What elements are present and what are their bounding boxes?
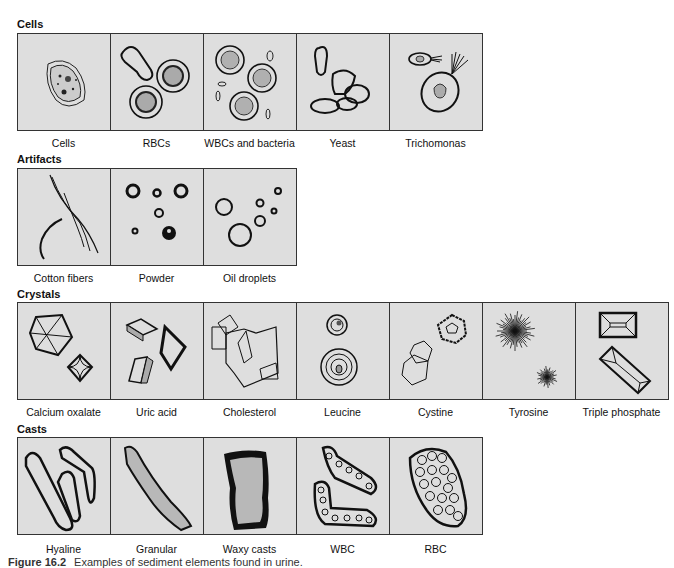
panel-rbc-cast (390, 438, 482, 534)
label-waxy-casts: Waxy casts (203, 543, 296, 555)
panel-powder (111, 169, 204, 265)
cast-inclusion-cell (356, 515, 362, 521)
cast-inclusion-cell (416, 468, 425, 477)
panel-leucine (297, 303, 390, 399)
panel-uric-acid (111, 303, 204, 399)
cast-inclusion-cell (444, 484, 453, 493)
section-title-artifacts: Artifacts (17, 153, 62, 165)
cast-inclusion-cell (432, 478, 441, 487)
panel-wbc-cast (297, 438, 390, 534)
cast-inclusion-cell (326, 453, 332, 459)
label-wbc: WBC (296, 543, 389, 555)
oil-droplets-illustration (204, 169, 296, 265)
cast-inclusion-cell (434, 506, 443, 515)
squamous-cell-illustration (18, 34, 110, 130)
wbc-cast-illustration (297, 438, 389, 534)
crystals-labels: Calcium oxalate Uric acid Cholesterol Le… (17, 406, 668, 418)
label-cystine: Cystine (389, 406, 482, 418)
triple-phosphate-illustration (576, 303, 668, 399)
rbcs-illustration (111, 34, 203, 130)
label-trichomonas: Trichomonas (389, 137, 482, 149)
casts-row (17, 437, 483, 535)
figure-caption: Figure 16.2Examples of sediment elements… (8, 556, 303, 568)
panel-cells (18, 34, 111, 130)
panel-yeast (297, 34, 390, 130)
panel-rbcs (111, 34, 204, 130)
calcium-oxalate-illustration (18, 303, 110, 399)
label-cholesterol: Cholesterol (203, 406, 296, 418)
cast-inclusion-cell (318, 487, 324, 493)
cast-inclusion-cell (366, 517, 372, 523)
cast-inclusion-cell (454, 512, 463, 521)
cast-inclusion-cell (428, 452, 437, 461)
leucine-illustration (297, 303, 389, 399)
panel-waxy-casts (204, 438, 297, 534)
crystals-row (17, 302, 669, 400)
powder-illustration (111, 169, 203, 265)
rbc-cast-illustration (390, 438, 482, 534)
panel-cystine (390, 303, 483, 399)
cotton-fibers-illustration (18, 169, 110, 265)
casts-labels: Hyaline Granular Waxy casts WBC RBC (17, 543, 482, 555)
label-yeast: Yeast (296, 137, 389, 149)
panel-cholesterol (204, 303, 297, 399)
label-rbcs: RBCs (110, 137, 203, 149)
cast-inclusion-cell (346, 467, 352, 473)
granular-cast-illustration (111, 438, 203, 534)
panel-calcium-oxalate (18, 303, 111, 399)
cast-inclusion-cell (336, 461, 342, 467)
caption-label: Figure 16.2 (8, 556, 66, 568)
section-title-casts: Casts (17, 423, 47, 435)
label-wbcs-bacteria: WBCs and bacteria (203, 137, 296, 149)
trichomonas-illustration (390, 34, 482, 130)
cells-labels: Cells RBCs WBCs and bacteria Yeast Trich… (17, 137, 482, 149)
artifacts-labels: Cotton fibers Powder Oil droplets (17, 272, 296, 284)
hyaline-cast-illustration (18, 438, 110, 534)
panel-trichomonas (390, 34, 482, 130)
label-rbc: RBC (389, 543, 482, 555)
wbcs-bacteria-illustration (204, 34, 296, 130)
cast-inclusion-cell (426, 492, 435, 501)
cast-inclusion-cell (356, 473, 362, 479)
cast-inclusion-cell (344, 515, 350, 521)
cast-inclusion-cell (418, 456, 427, 465)
waxy-cast-illustration (204, 438, 296, 534)
panel-tyrosine (483, 303, 576, 399)
cast-inclusion-cell (438, 454, 447, 463)
label-hyaline: Hyaline (17, 543, 110, 555)
panel-wbcs-bacteria (204, 34, 297, 130)
uric-acid-illustration (111, 303, 203, 399)
label-triple-phosphate: Triple phosphate (575, 406, 668, 418)
label-granular: Granular (110, 543, 203, 555)
tyrosine-illustration (483, 303, 575, 399)
cast-inclusion-cell (450, 494, 459, 503)
panel-hyaline (18, 438, 111, 534)
label-cotton-fibers: Cotton fibers (17, 272, 110, 284)
section-title-crystals: Crystals (17, 288, 60, 300)
label-tyrosine: Tyrosine (482, 406, 575, 418)
panel-oil-droplets (204, 169, 296, 265)
caption-text: Examples of sediment elements found in u… (74, 556, 303, 568)
cystine-illustration (390, 303, 482, 399)
cholesterol-illustration (204, 303, 296, 399)
label-calcium-oxalate: Calcium oxalate (17, 406, 110, 418)
label-powder: Powder (110, 272, 203, 284)
panel-cotton-fibers (18, 169, 111, 265)
label-leucine: Leucine (296, 406, 389, 418)
cast-inclusion-cell (440, 466, 449, 475)
cast-inclusion-cell (420, 480, 429, 489)
artifacts-row (17, 168, 297, 266)
yeast-illustration (297, 34, 389, 130)
section-title-cells: Cells (17, 18, 43, 30)
cast-inclusion-cell (428, 466, 437, 475)
cast-inclusion-cell (366, 483, 372, 489)
panel-triple-phosphate (576, 303, 668, 399)
label-oil-droplets: Oil droplets (203, 272, 296, 284)
cast-inclusion-cell (332, 515, 338, 521)
cast-inclusion-cell (320, 497, 326, 503)
cast-inclusion-cell (448, 474, 457, 483)
label-cells: Cells (17, 137, 110, 149)
panel-granular (111, 438, 204, 534)
label-uric-acid: Uric acid (110, 406, 203, 418)
cast-inclusion-cell (322, 509, 328, 515)
